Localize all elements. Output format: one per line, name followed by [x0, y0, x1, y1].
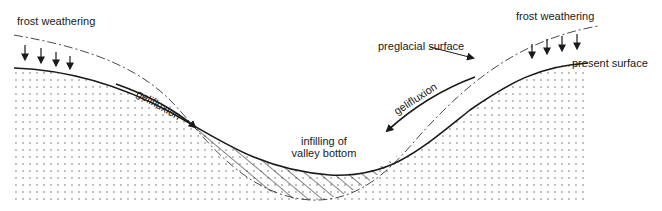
frost-weathering-label-left: frost weathering [17, 16, 95, 27]
frost-weathering-label-right: frost weathering [516, 11, 594, 22]
infill-label-line1: infilling of [264, 136, 384, 147]
valley-cross-section-diagram [0, 0, 662, 211]
present-surface-label: present surface [572, 58, 648, 69]
infill-label-line2: valley bottom [264, 148, 384, 159]
frost-weathering-arrows-left [22, 45, 73, 69]
infill-label: infilling of valley bottom [264, 136, 384, 159]
preglacial-surface-label: preglacial surface [378, 41, 464, 52]
